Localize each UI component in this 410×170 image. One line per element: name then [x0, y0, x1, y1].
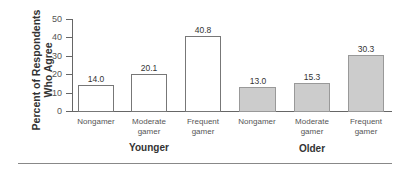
bar-value-label: 30.3 — [346, 44, 386, 54]
x-category-line: gamer — [339, 127, 393, 137]
y-tick-label: 40 — [40, 32, 62, 42]
x-category-line: Moderate — [285, 117, 339, 127]
x-category-line: Nongamer — [69, 117, 123, 127]
x-axis — [66, 111, 392, 112]
y-tick — [66, 93, 72, 94]
bar-younger-moderate-gamer — [131, 74, 167, 112]
bar-older-moderate-gamer — [294, 83, 330, 112]
bar-younger-nongamer — [78, 85, 114, 112]
y-tick-label: 50 — [40, 14, 62, 24]
x-category-label: Frequent gamer — [339, 117, 393, 137]
x-category-line: gamer — [176, 127, 230, 137]
group-label-older: Older — [262, 143, 362, 154]
y-tick — [66, 56, 72, 57]
x-category-label: Moderate gamer — [122, 117, 176, 137]
y-tick — [66, 111, 72, 112]
group-label-younger: Younger — [99, 142, 199, 153]
x-category-line: Frequent — [176, 117, 230, 127]
bar-value-label: 15.3 — [292, 72, 332, 82]
y-tick-label: 30 — [40, 51, 62, 61]
y-tick-label: 20 — [40, 69, 62, 79]
bottom-rule — [18, 163, 392, 164]
x-category-line: Nongamer — [230, 117, 284, 127]
x-category-line: gamer — [122, 127, 176, 137]
bar-value-label: 13.0 — [238, 76, 278, 86]
y-tick — [66, 74, 72, 75]
bar-value-label: 14.0 — [76, 74, 116, 84]
x-category-line: gamer — [285, 127, 339, 137]
bar-older-nongamer — [239, 87, 276, 112]
x-category-label: Frequent gamer — [176, 117, 230, 137]
bar-older-frequent-gamer — [348, 55, 384, 112]
x-category-label: Moderate gamer — [285, 117, 339, 137]
x-category-line: Moderate — [122, 117, 176, 127]
y-tick-label: 10 — [40, 88, 62, 98]
y-axis — [72, 19, 73, 111]
x-category-label: Nongamer — [69, 117, 123, 127]
y-tick — [66, 19, 72, 20]
bar-younger-frequent-gamer — [185, 36, 221, 112]
y-tick-label: 0 — [40, 106, 62, 116]
x-category-line: Frequent — [339, 117, 393, 127]
bar-value-label: 40.8 — [183, 25, 223, 35]
y-tick — [66, 37, 72, 38]
bar-value-label: 20.1 — [129, 63, 169, 73]
x-category-label: Nongamer — [230, 117, 284, 127]
